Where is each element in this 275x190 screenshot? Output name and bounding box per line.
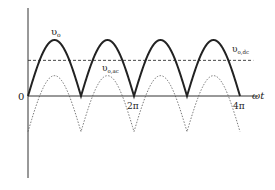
tick-label-4pi: 4π xyxy=(233,101,245,111)
x-axis-label: ωt xyxy=(252,90,265,101)
vo-label: υo xyxy=(51,26,61,38)
origin-label: 0 xyxy=(18,91,24,102)
vo-ac-label: υo,ac xyxy=(102,63,119,74)
vo-curve xyxy=(28,40,240,96)
tick-label-2pi: 2π xyxy=(127,101,139,111)
vo-dc-label: υo,dc xyxy=(232,44,249,55)
waveform-diagram: 0 ωt 2π 4π υo υo,dc υo,ac xyxy=(0,0,275,190)
